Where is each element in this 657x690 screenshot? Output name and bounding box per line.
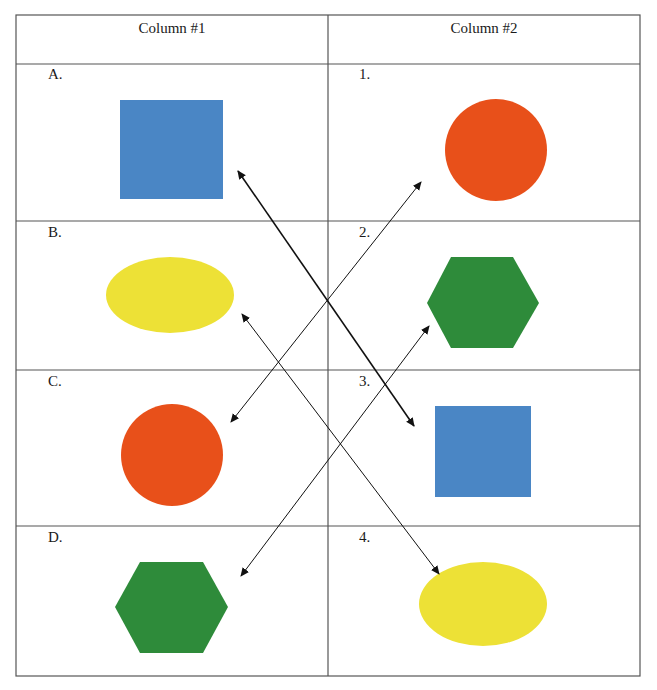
red-circle-1 — [445, 99, 547, 201]
arrow-c-to-1 — [231, 182, 421, 422]
yellow-ellipse-b — [106, 257, 234, 333]
row-label-d: D. — [48, 529, 63, 545]
green-hexagon-d — [115, 562, 228, 653]
row-label-a: A. — [48, 66, 63, 82]
column-1-header: Column #1 — [138, 20, 205, 36]
matching-diagram: Column #1 Column #2 A. B. C. D. 1. 2. 3.… — [0, 0, 657, 690]
row-label-1: 1. — [359, 66, 370, 82]
green-hexagon-2 — [427, 257, 539, 348]
row-label-2: 2. — [359, 224, 370, 240]
table-grid — [16, 15, 640, 676]
column-2-header: Column #2 — [450, 20, 517, 36]
row-label-4: 4. — [359, 529, 370, 545]
red-circle-c — [121, 404, 223, 506]
arrow-d-to-2 — [241, 326, 429, 576]
row-label-b: B. — [48, 224, 62, 240]
yellow-ellipse-4 — [419, 562, 547, 646]
arrow-a-to-3 — [238, 171, 414, 426]
diagram-canvas — [0, 0, 657, 690]
blue-square-a — [120, 100, 223, 199]
row-label-c: C. — [48, 373, 62, 389]
row-label-3: 3. — [359, 373, 370, 389]
blue-square-3 — [435, 406, 531, 497]
